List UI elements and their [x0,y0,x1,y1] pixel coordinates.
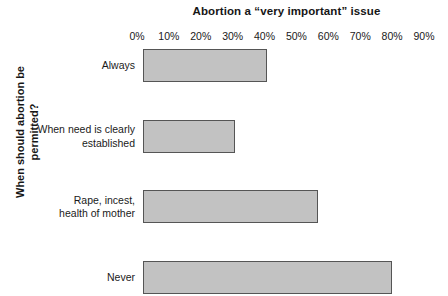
category-label-line: established [13,137,135,151]
bar [143,120,235,153]
bar-row: Always [0,49,448,82]
category-label-line: health of mother [13,207,135,221]
bar [143,49,267,82]
category-label-line: Never [13,271,135,285]
bar-row: When need is clearlyestablished [0,120,448,153]
category-label-line: Rape, incest, [13,194,135,208]
bar-chart: Abortion a “very important” issue 0%10%2… [0,0,448,296]
bar [143,190,318,223]
plot-area: AlwaysWhen need is clearlyestablishedRap… [0,0,448,296]
category-label: When need is clearlyestablished [13,123,135,150]
category-label: Always [13,59,135,73]
bar [143,261,392,294]
bar-row: Rape, incest,health of mother [0,190,448,223]
category-label: Never [13,271,135,285]
category-label-line: When need is clearly [13,123,135,137]
bar-row: Never [0,261,448,294]
category-label: Rape, incest,health of mother [13,194,135,221]
category-label-line: Always [13,59,135,73]
